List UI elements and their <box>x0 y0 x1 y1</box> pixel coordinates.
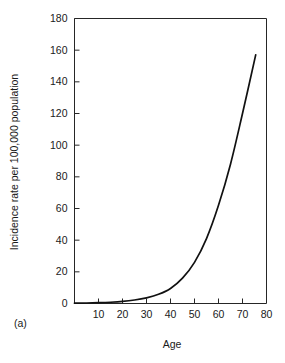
x-tick-label: 60 <box>213 308 225 320</box>
y-tick-label: 20 <box>56 265 68 277</box>
y-tick-label: 180 <box>50 12 68 24</box>
x-axis-tick-labels: 1020304050607080 <box>93 308 273 320</box>
data-series-curve <box>75 55 256 303</box>
y-axis-tick-labels: 020406080100120140160180 <box>50 12 68 309</box>
x-tick-label: 80 <box>261 308 273 320</box>
y-tick-label: 100 <box>50 139 68 151</box>
incidence-rate-chart: 020406080100120140160180 102030405060708… <box>0 0 285 363</box>
x-tick-label: 70 <box>237 308 249 320</box>
y-tick-label: 40 <box>56 234 68 246</box>
figure-panel: 020406080100120140160180 102030405060708… <box>0 0 285 363</box>
incidence-curve <box>75 55 256 303</box>
y-axis-ticks <box>75 19 80 304</box>
y-tick-label: 80 <box>56 170 68 182</box>
x-tick-label: 40 <box>165 308 177 320</box>
y-tick-label: 120 <box>50 107 68 119</box>
y-axis-title: Incidence rate per 100,000 population <box>8 74 20 250</box>
plot-frame <box>75 19 267 304</box>
x-tick-label: 50 <box>189 308 201 320</box>
y-tick-label: 140 <box>50 75 68 87</box>
x-tick-label: 30 <box>141 308 153 320</box>
y-tick-label: 60 <box>56 202 68 214</box>
x-axis-title: Age <box>163 338 182 350</box>
x-tick-label: 10 <box>93 308 105 320</box>
x-tick-label: 20 <box>117 308 129 320</box>
y-tick-label: 160 <box>50 44 68 56</box>
panel-label: (a) <box>14 317 27 329</box>
y-tick-label: 0 <box>62 297 68 309</box>
